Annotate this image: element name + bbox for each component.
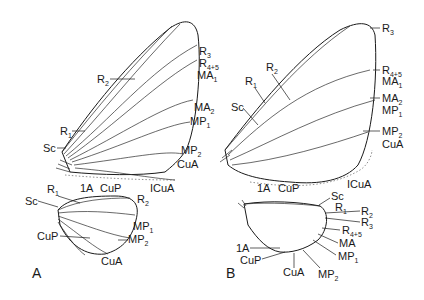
- label-a-MA1: MA1: [197, 69, 218, 83]
- label-b-hR1: R1: [335, 201, 347, 215]
- label-b-Sc: Sc: [231, 101, 244, 113]
- label-a-MA2: MA2: [194, 101, 215, 115]
- label-a-ICuA: ICuA: [150, 182, 175, 194]
- label-b-MP2: MP2: [382, 125, 403, 139]
- label-a-MP1: MP1: [190, 115, 211, 129]
- label-a-hMP2: MP2: [128, 233, 149, 247]
- label-b-hMP2: MP2: [318, 268, 339, 282]
- label-b-CuA: CuA: [382, 138, 404, 150]
- label-a-hSc: Sc: [25, 195, 38, 207]
- label-a-hR2: R2: [137, 193, 149, 207]
- label-b-R1: R1: [245, 75, 257, 89]
- label-a-Sc: Sc: [43, 142, 56, 154]
- label-a-R1: R1: [60, 125, 72, 139]
- label-b-R3: R3: [382, 22, 394, 36]
- panel-a-forewing: [56, 22, 199, 180]
- label-b-hMA: MA: [339, 237, 356, 249]
- label-a-hCuP: CuP: [37, 230, 58, 242]
- label-a-hR1: R1: [47, 183, 59, 197]
- panel-a-hindwing: [58, 196, 137, 255]
- label-b-MP1: MP1: [382, 104, 403, 118]
- label-b-h1A: 1A: [236, 242, 250, 254]
- label-b-hR45: R4+5: [342, 224, 362, 238]
- wing-venation-figure: R2 R3 R4+5 MA1 MA2 MP1 R1 Sc MP2 CuA 1A …: [0, 0, 424, 300]
- label-a-CuP: CuP: [100, 182, 121, 194]
- label-b-hCuP: CuP: [240, 254, 261, 266]
- panel-b-hindwing: [238, 200, 327, 252]
- label-b-ICuA: ICuA: [347, 178, 372, 190]
- panel-a-hindwing-labels: R1 Sc R2 MP1 MP2 CuP CuA: [25, 183, 154, 267]
- figure-canvas: R2 R3 R4+5 MA1 MA2 MP1 R1 Sc MP2 CuA 1A …: [0, 0, 424, 300]
- label-b-hMP1: MP1: [338, 250, 359, 264]
- panel-label-a: A: [32, 265, 42, 281]
- panel-b-forewing-labels: R3 R2 R1 Sc R4+5 MA1 MA2 MP1 MP2 CuA 1A …: [231, 22, 404, 194]
- label-b-1A: 1A: [257, 182, 271, 194]
- label-a-hCuA: CuA: [101, 255, 123, 267]
- label-b-CuP: CuP: [278, 182, 299, 194]
- label-a-CuA: CuA: [177, 158, 199, 170]
- label-a-hMP1: MP1: [133, 220, 154, 234]
- panel-label-b: B: [226, 265, 235, 281]
- label-a-MP2: MP2: [181, 144, 202, 158]
- label-b-hCuA: CuA: [283, 266, 305, 278]
- label-a-R2: R2: [97, 73, 109, 87]
- label-b-R2: R2: [266, 61, 278, 75]
- label-a-1A: 1A: [80, 182, 94, 194]
